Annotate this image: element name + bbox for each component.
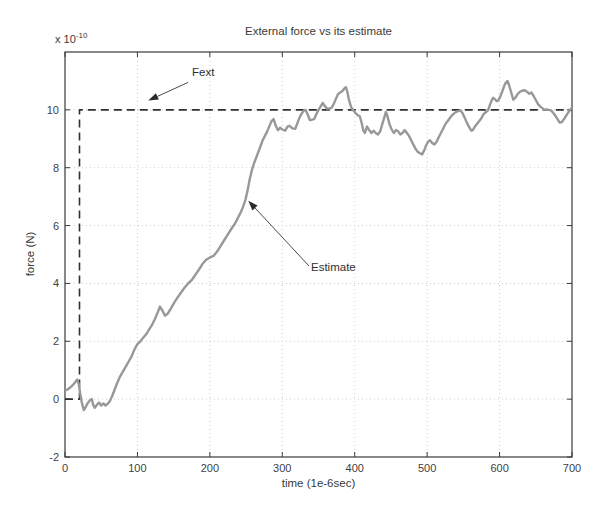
grid-layer <box>66 53 571 456</box>
y-axis-label: force (N) <box>24 232 36 277</box>
arrowhead-icon <box>148 93 159 100</box>
x-tick-label: 400 <box>346 462 364 474</box>
y-tick-label: 8 <box>53 162 59 174</box>
tick-layer <box>65 52 572 457</box>
series-estimate-line <box>65 81 572 410</box>
y-tick-label: 0 <box>53 393 59 405</box>
annotation-arrow-1 <box>248 201 309 266</box>
tick-label-layer: 0100200300400500600700-20246810 <box>47 104 581 474</box>
y-tick-label: 10 <box>47 104 59 116</box>
chart-canvas: 0100200300400500600700-20246810 <box>0 0 603 511</box>
y-tick-label: 2 <box>53 335 59 347</box>
y-tick-label: 6 <box>53 220 59 232</box>
chart-title: External force vs its estimate <box>65 25 572 37</box>
y-tick-label: 4 <box>53 277 59 289</box>
y-axis-scale-label: x 10-10 <box>55 31 87 45</box>
figure-container: 0100200300400500600700-20246810 External… <box>0 0 603 511</box>
series-fext-line <box>65 110 572 399</box>
scale-exponent: -10 <box>76 31 88 40</box>
x-tick-label: 200 <box>201 462 219 474</box>
scale-base: x 10 <box>55 33 76 45</box>
y-tick-label: -2 <box>49 451 59 463</box>
x-tick-label: 0 <box>62 462 68 474</box>
x-tick-label: 600 <box>490 462 508 474</box>
x-tick-label: 700 <box>563 462 581 474</box>
x-tick-label: 100 <box>128 462 146 474</box>
plot-box <box>65 52 572 457</box>
estimate-annotation-label: Estimate <box>311 261 356 273</box>
x-tick-label: 300 <box>273 462 291 474</box>
fext-annotation-label: Fext <box>192 66 214 78</box>
x-axis-label: time (1e-6sec) <box>65 477 572 489</box>
x-tick-label: 500 <box>418 462 436 474</box>
annotation-arrow-0 <box>148 82 188 100</box>
